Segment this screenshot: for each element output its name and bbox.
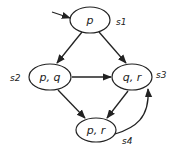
node-s1: p s1 [70,7,126,33]
node-s2-label: p, q [39,71,61,84]
state-s1-label: s1 [116,17,126,27]
edge-s1-s2 [57,32,82,63]
kripke-diagram: p s1 p, q s2 q, r s3 p, r s4 [0,0,172,159]
state-s3-label: s3 [156,70,167,80]
node-s3-label: q, r [123,71,143,84]
node-s4-label: p, r [86,124,107,137]
edge-s2-s4 [58,90,85,118]
edge-s1-s3 [99,32,126,63]
node-s4: p, r s4 [76,118,133,146]
initial-arrow [52,12,70,18]
state-s4-label: s4 [122,136,133,146]
node-s2: p, q s2 [10,64,71,90]
edge-s4-s3 [115,89,148,134]
node-s1-label: p [86,14,94,27]
node-s3: q, r s3 [112,64,167,90]
state-s2-label: s2 [10,73,21,83]
edge-s3-s4 [107,91,128,118]
